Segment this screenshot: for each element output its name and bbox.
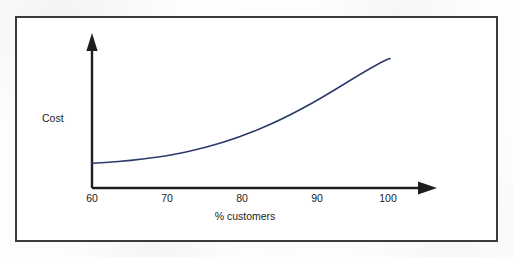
x-tick-label-60: 60 — [72, 192, 112, 204]
figure-root: 60 70 80 90 100 % customers Cost — [0, 0, 513, 257]
x-tick-label-70: 70 — [147, 192, 187, 204]
cost-curve-line — [92, 59, 390, 164]
x-tick-label-100: 100 — [368, 192, 408, 204]
y-axis-title: Cost — [42, 112, 86, 124]
x-tick-label-90: 90 — [297, 192, 337, 204]
x-axis-arrowhead-icon — [418, 181, 437, 194]
y-axis-arrowhead-icon — [86, 33, 97, 51]
x-axis-title: % customers — [175, 210, 315, 222]
x-tick-label-80: 80 — [222, 192, 262, 204]
